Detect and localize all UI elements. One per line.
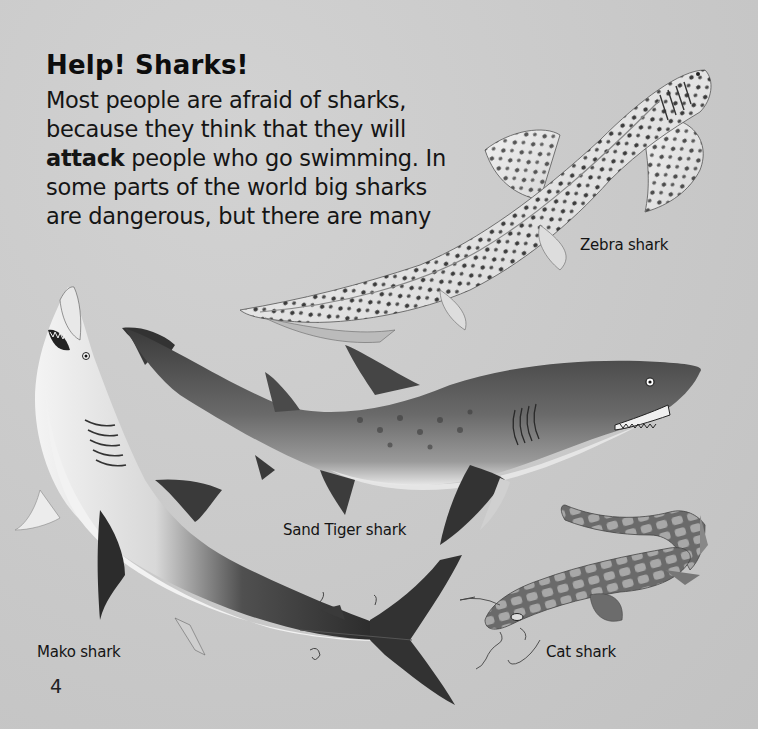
zebra-shark-label: Zebra shark xyxy=(580,236,668,254)
book-page: Help! Sharks! Most people are afraid of … xyxy=(0,0,758,729)
sand-tiger-shark-label: Sand Tiger shark xyxy=(283,521,406,539)
cat-shark-label: Cat shark xyxy=(546,643,616,661)
shark-illustrations xyxy=(0,0,758,729)
mako-shark-label: Mako shark xyxy=(37,643,121,661)
zebra-shark-illustration xyxy=(240,70,711,343)
page-number: 4 xyxy=(50,675,62,697)
sand-tiger-shark-illustration xyxy=(122,328,701,545)
